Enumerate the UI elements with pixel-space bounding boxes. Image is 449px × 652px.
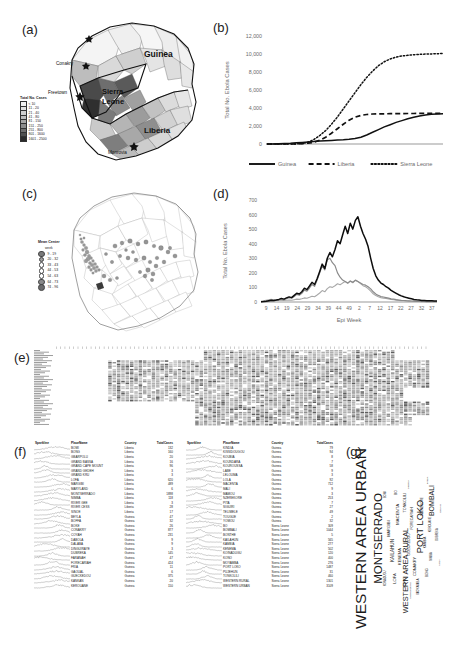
wordcloud-word: KISSIDOUGOU <box>409 582 411 598</box>
panel-c-legend: Mean Center week 9 - 1920 - 3233 - 4344 … <box>38 240 60 290</box>
legend-class-label: 64 - 73 <box>47 280 58 285</box>
sparkline-cell <box>186 584 222 589</box>
x-tick-label: 14 <box>274 305 280 311</box>
x-tick-label: 22 <box>398 305 404 311</box>
map-regions <box>72 24 194 161</box>
panel-d-label: (d) <box>213 186 229 201</box>
wordcloud-word: MONTSERRADO <box>371 493 383 584</box>
x-tick-label: 24 <box>294 305 300 311</box>
x-tick-label: 34 <box>315 305 321 311</box>
panel-c-mean-center-map: (c) <box>0 182 205 344</box>
x-tick-label: 29 <box>305 305 311 311</box>
y-tick-label: 6,000 <box>249 87 262 93</box>
legend-title: Mean Center <box>38 240 60 245</box>
wordcloud-word: KONO <box>403 577 407 588</box>
heatmap-cells <box>108 350 429 425</box>
series-line-total <box>261 217 437 302</box>
table-body-left: BOMILiberia132BONGLiberia160GBARPOLULibe… <box>34 446 174 588</box>
wordcloud-word: BO <box>393 490 397 495</box>
wordcloud-word: WESTERN AREA URBAN <box>352 448 370 629</box>
series-line-liberia <box>267 113 443 144</box>
y-tick-label: 300 <box>249 255 258 261</box>
panel-g-wordcloud: (g) WESTERN AREA URBANMONTSERRADOWESTERN… <box>340 438 449 652</box>
y-axis-title: Total No. Ebola Cases <box>224 61 230 118</box>
wordcloud-word: LOFA <box>392 573 397 584</box>
legend-class-label: 44 - 53 <box>47 268 58 273</box>
x-tick-label: 2 <box>358 305 361 311</box>
y-tick-label: 200 <box>249 270 258 276</box>
panel-b-svg: 02,0004,0006,0008,00010,00012,000Total N… <box>205 14 449 184</box>
legend-class-label: 9 - 19 <box>47 252 56 257</box>
panel-a-map-svg: Guinea Sierra Leone Liberia Conakry Free… <box>58 14 203 174</box>
wordcloud-word: KAILAHUN <box>390 539 395 562</box>
wordcloud-word: NZEREKORE <box>419 497 423 516</box>
x-tick-label: 17 <box>388 305 394 311</box>
legend-class-label: 33 - 43 <box>47 263 58 268</box>
y-tick-label: 10,000 <box>246 51 262 57</box>
x-tick-label: 37 <box>429 305 435 311</box>
legend-class-label: 20 - 32 <box>47 257 58 262</box>
wordcloud-word: BOMI <box>384 491 387 498</box>
x-tick-label: 12 <box>377 305 383 311</box>
wordcloud-word: MOYAMBA <box>415 578 419 594</box>
country-cell: Sierra Leone <box>270 584 303 589</box>
panel-a-choropleth-map: (a) <box>0 8 205 180</box>
y-tick-label: 500 <box>249 226 258 232</box>
map-label-liberia: Liberia <box>144 126 171 135</box>
y-tick-label: 0 <box>254 299 257 305</box>
table-row[interactable]: KEROUANEGuinea150 <box>34 584 174 589</box>
wordcloud-word: KEROUANE <box>428 517 432 533</box>
panel-b-label: (b) <box>213 20 229 35</box>
map-label-sierra-leone-2: Leone <box>102 97 124 106</box>
x-tick-label: 19 <box>284 305 290 311</box>
y-tick-label: 4,000 <box>249 105 262 111</box>
table-left-wrapper: Sparkline PlaceName Country TotalCases B… <box>34 442 174 589</box>
sparkline-chart <box>186 584 222 589</box>
x-tick-label: 7 <box>368 305 371 311</box>
legend-label-guinea: Guinea <box>278 161 297 167</box>
wordcloud-word: CONAKRY <box>412 557 417 576</box>
map-label-monrovia: Monrovia <box>108 150 127 155</box>
legend-class-label: 54 - 63 <box>47 274 58 279</box>
placename-cell: KEROUANE <box>70 584 124 589</box>
map-label-conakry: Conakry <box>56 61 74 66</box>
legend-class-label: 1601 - 2500 <box>29 137 47 142</box>
y-tick-label: 8,000 <box>249 69 262 75</box>
legend-rows: < 1011 - 2021 - 4041 - 8081 - 150151 - 2… <box>20 102 47 142</box>
wordcloud-word: DUBREKA <box>436 528 439 541</box>
placename-cell: WESTERN URBAN <box>222 584 270 589</box>
legend-class-6: 74 - 96 <box>38 285 60 291</box>
x-tick-label: 44 <box>336 305 342 311</box>
wordcloud-canvas: WESTERN AREA URBANMONTSERRADOWESTERN ARE… <box>340 439 445 639</box>
sparkline-table-left: Sparkline PlaceName Country TotalCases B… <box>34 442 174 589</box>
table-row[interactable]: WESTERN URBANSierra Leone3109 <box>186 584 334 589</box>
x-tick-label: 49 <box>346 305 352 311</box>
y-axis-title: Total No. Ebola Cases <box>222 223 228 279</box>
totalcases-cell: 3109 <box>303 584 334 589</box>
panel-b-cumulative-cases-chart: (b) 02,0004,0006,0008,00010,00012,000Tot… <box>205 14 449 184</box>
panel-a-legend: Total No. Cases < 1011 - 2021 - 4041 - 8… <box>20 96 47 141</box>
series-line-sierra-leone <box>267 54 443 145</box>
y-tick-label: 2,000 <box>249 123 262 129</box>
wordcloud-word: BONG <box>425 568 429 577</box>
totalcases-cell: 150 <box>145 584 174 589</box>
legend-rows: 9 - 1920 - 3233 - 4344 - 5354 - 6364 - 7… <box>38 251 60 290</box>
legend-title: Total No. Cases <box>20 96 47 101</box>
legend-class-8: 1601 - 2500 <box>20 137 47 141</box>
legend-label-sierra-leone: Sierra Leone <box>400 161 432 167</box>
wordcloud-word: KINDIA <box>426 477 428 485</box>
y-tick-label: 400 <box>249 241 258 247</box>
series-line-guinea <box>267 114 443 144</box>
map-c-regions <box>74 194 196 331</box>
wordcloud-word: KOINADUGU <box>384 571 387 587</box>
series-line-series2 <box>261 258 437 302</box>
panel-c-label: (c) <box>22 186 37 201</box>
panel-d-svg: 0100200300400500600700Total No. Ebola Ca… <box>205 184 449 344</box>
wordcloud-word: KAMBIA <box>423 537 427 549</box>
panel-e-svg <box>30 346 445 432</box>
wordcloud-word: BOMBALI <box>428 485 435 516</box>
sparkline-cell <box>34 584 70 589</box>
wordcloud-word: MACENTA <box>395 504 400 525</box>
panel-d-epidemic-curve-chart: (d) 0100200300400500600700Total No. Ebol… <box>205 184 449 344</box>
sparkline-chart <box>34 584 70 589</box>
